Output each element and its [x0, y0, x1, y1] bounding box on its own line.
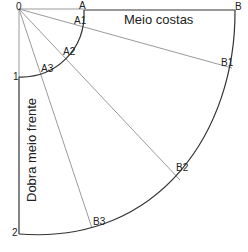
point-label-b3: B3	[93, 216, 106, 227]
point-label-origin: 0	[16, 1, 22, 12]
point-label-b1: B1	[221, 57, 234, 68]
point-label-b2: B2	[176, 162, 189, 173]
point-label-2: 2	[12, 227, 18, 238]
label-dobra-meio-frente: Dobra meio frente	[24, 98, 39, 202]
skirt-pattern-diagram: 0 A A1 A2 A3 1 B B1 B2 B3 2 Meio costas …	[0, 0, 248, 252]
point-label-a2: A2	[63, 46, 76, 57]
point-label-b: B	[235, 1, 242, 12]
point-label-1: 1	[13, 71, 19, 82]
radial-line-b2	[19, 9, 180, 180]
point-label-a: A	[79, 0, 86, 11]
point-label-a1: A1	[74, 15, 87, 26]
point-label-a3: A3	[41, 63, 54, 74]
label-meio-costas: Meio costas	[124, 12, 194, 27]
